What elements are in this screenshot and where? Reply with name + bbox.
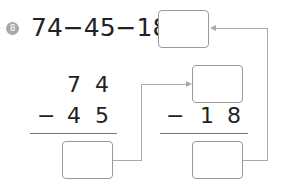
left-top-ones: 4	[95, 73, 109, 97]
right-bottom-ones: 8	[227, 104, 241, 128]
right-minus-sign: −	[166, 104, 184, 128]
connector-right-vertical	[267, 28, 268, 161]
left-minus-sign: −	[37, 104, 55, 128]
right-sum-rule	[160, 133, 248, 134]
problem-number-badge: 8	[6, 22, 19, 35]
connector-right-top	[216, 28, 268, 29]
connector-left-vertical	[141, 84, 142, 161]
left-sum-rule	[30, 133, 117, 134]
answer-box-left[interactable]	[62, 141, 113, 179]
arrow-left-icon	[210, 25, 216, 31]
connector-left-horizontal	[113, 160, 142, 161]
left-top-tens: 7	[67, 73, 81, 97]
left-bottom-tens: 4	[67, 104, 81, 128]
answer-box-right-top[interactable]	[192, 65, 243, 103]
left-bottom-ones: 5	[95, 104, 109, 128]
connector-left-top	[141, 84, 187, 85]
answer-box-right-bottom[interactable]	[192, 141, 243, 179]
right-bottom-tens: 1	[200, 104, 214, 128]
connector-right-horizontal	[243, 160, 268, 161]
answer-box-final[interactable]	[158, 10, 209, 48]
arrow-right-icon	[186, 81, 192, 87]
